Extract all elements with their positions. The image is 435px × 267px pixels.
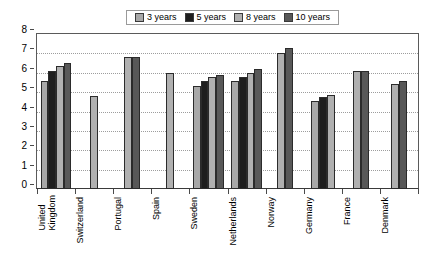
x-axis-tick-mark [151, 189, 152, 194]
legend-label: 5 years [197, 13, 227, 22]
legend-item[interactable]: 10 years [284, 13, 331, 22]
y-axis-tick-label: 0 [3, 179, 27, 190]
x-axis-tick-mark [380, 189, 381, 194]
bar[interactable] [254, 69, 262, 189]
x-axis-tick-label: Germany [304, 197, 342, 234]
y-axis-tick-label: 3 [3, 120, 27, 131]
x-axis-tick-label: Norway [266, 197, 304, 228]
legend-label: 8 years [246, 13, 276, 22]
bar[interactable] [41, 81, 49, 190]
bar[interactable] [277, 53, 285, 189]
bar-group [37, 34, 75, 189]
y-axis-tick-label: 6 [3, 62, 27, 73]
bar-groups [37, 34, 418, 189]
x-axis-tick-label: Spain [151, 197, 189, 220]
y-axis-tick-mark [30, 145, 34, 146]
bar[interactable] [208, 77, 216, 189]
x-axis-tick-mark [266, 189, 267, 194]
bar[interactable] [201, 81, 209, 190]
legend-item[interactable]: 8 years [234, 13, 276, 22]
bar[interactable] [90, 96, 98, 189]
y-axis-tick-label: 4 [3, 101, 27, 112]
legend-swatch-icon [135, 13, 144, 22]
chart-legend: 3 years5 years8 years10 years [126, 10, 339, 25]
x-axis-tick-mark [189, 189, 190, 194]
bar[interactable] [132, 57, 140, 189]
bar-group [304, 34, 342, 189]
bar[interactable] [361, 71, 369, 189]
legend-swatch-icon [185, 13, 194, 22]
x-axis-tick-mark [37, 189, 38, 194]
y-axis: 012345678 [0, 28, 34, 194]
bar[interactable] [311, 101, 319, 189]
bar[interactable] [327, 95, 335, 189]
x-axis-tick-label: Switzerland [75, 197, 113, 244]
y-axis-tick-label: 1 [3, 159, 27, 170]
x-axis-tick-label: France [342, 197, 380, 225]
bar[interactable] [124, 57, 132, 189]
y-axis-tick-label: 5 [3, 82, 27, 93]
y-axis-tick-mark [30, 29, 34, 30]
bar[interactable] [231, 81, 239, 190]
bar[interactable] [319, 97, 327, 189]
y-axis-tick-label: 7 [3, 43, 27, 54]
bar-group [266, 34, 304, 189]
bar[interactable] [64, 63, 72, 189]
x-axis-tick-label: Netherlands [228, 197, 266, 246]
x-axis-tick-label: Denmark [380, 197, 418, 234]
bar[interactable] [399, 81, 407, 190]
x-axis-tick-mark [113, 189, 114, 194]
y-axis-tick-mark [30, 87, 34, 88]
x-axis-tick-mark [342, 189, 343, 194]
bar-group [380, 34, 418, 189]
legend-label: 10 years [296, 13, 331, 22]
y-axis-tick-label: 8 [3, 24, 27, 35]
x-axis-tick-mark [75, 189, 76, 194]
bar-group [189, 34, 227, 189]
y-axis-tick-mark [30, 126, 34, 127]
x-axis-tick-label: UnitedKingdom [37, 195, 75, 231]
y-axis-tick-mark [30, 68, 34, 69]
bar[interactable] [56, 66, 64, 189]
legend-swatch-icon [284, 13, 293, 22]
chart-container: 3 years5 years8 years10 years 012345678 … [0, 0, 435, 267]
y-axis-tick-mark [30, 48, 34, 49]
x-axis-tick-mark [228, 189, 229, 194]
bar[interactable] [353, 71, 361, 189]
bar[interactable] [216, 75, 224, 189]
y-axis-tick-mark [30, 107, 34, 108]
legend-item[interactable]: 5 years [185, 13, 227, 22]
bar-group [75, 34, 113, 189]
legend-swatch-icon [234, 13, 243, 22]
bar-group [342, 34, 380, 189]
x-axis-tick-label: Sweden [189, 197, 227, 230]
x-axis: UnitedKingdomSwitzerlandPortugalSpainSwe… [37, 189, 418, 267]
bar-group [228, 34, 266, 189]
x-axis-tick-mark [418, 189, 419, 194]
bar-group [113, 34, 151, 189]
x-axis-tick-mark [304, 189, 305, 194]
bar[interactable] [247, 73, 255, 189]
y-axis-tick-mark [30, 165, 34, 166]
bar[interactable] [48, 71, 56, 189]
bar[interactable] [166, 73, 174, 189]
legend-label: 3 years [147, 13, 177, 22]
legend-item[interactable]: 3 years [135, 13, 177, 22]
bar[interactable] [285, 48, 293, 189]
y-axis-tick-label: 2 [3, 140, 27, 151]
bar-group [151, 34, 189, 189]
bar[interactable] [193, 86, 201, 189]
x-axis-tick-label: Portugal [113, 197, 151, 231]
y-axis-tick-mark [30, 184, 34, 185]
bar[interactable] [391, 84, 399, 189]
bar[interactable] [239, 77, 247, 189]
